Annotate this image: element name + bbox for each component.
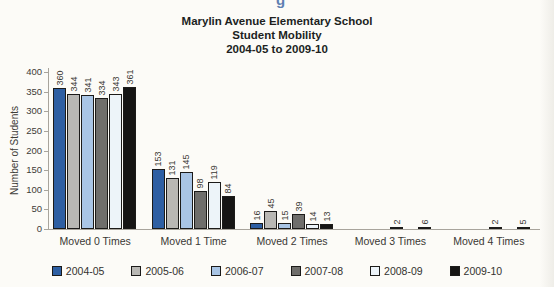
bar-2005-06-moved-0-times [67,94,80,229]
bar-value-label: 45 [265,174,276,208]
bar-2007-08-moved-1-time [194,191,207,229]
bar-2006-07-moved-2-times [278,223,291,229]
x-axis-category-label: Moved 4 Times [434,235,544,247]
bar-2006-07-moved-0-times [81,95,94,229]
legend-swatch-2009-10 [450,266,460,276]
bar-2004-05-moved-2-times [250,223,263,229]
x-axis-line [48,229,540,230]
y-axis-tick-label: 400 [14,67,42,77]
x-axis-category-label: Moved 0 Times [40,235,150,247]
y-axis-tick-mark [44,190,48,191]
x-axis-category-label: Moved 1 Time [139,235,249,247]
bar-2004-05-moved-1-time [152,169,165,229]
legend-item-2009-10: 2009-10 [450,265,503,277]
legend-label: 2007-08 [305,265,344,277]
bar-value-label: 13 [321,187,332,221]
bar-value-label: 344 [68,57,79,91]
legend-label: 2005-06 [145,265,184,277]
y-axis-tick-label: 50 [14,204,42,214]
y-axis-tick-mark [44,72,48,73]
x-axis-category-label: Moved 2 Times [237,235,347,247]
y-axis-tick-mark [44,131,48,132]
legend-item-2007-08: 2007-08 [291,265,344,277]
bar-value-label: 14 [307,187,318,221]
bar-value-label: 334 [96,61,107,95]
bar-value-label: 84 [223,159,234,193]
bar-2009-10-moved-2-times [320,224,333,229]
legend-swatch-2004-05 [52,266,62,276]
bar-2008-09-moved-1-time [208,182,221,229]
y-axis-title: Number of Students [9,101,20,201]
legend-swatch-2006-07 [211,266,221,276]
bar-2007-08-moved-0-times [95,98,108,229]
bar-2007-08-moved-4-times [489,227,502,229]
legend-item-2008-09: 2008-09 [370,265,423,277]
y-axis-tick-mark [44,209,48,210]
bar-2007-08-moved-2-times [292,214,305,229]
bar-2004-05-moved-0-times [53,88,66,229]
legend-swatch-2007-08 [291,266,301,276]
y-axis-tick-label: 0 [14,224,42,234]
legend-item-2005-06: 2005-06 [131,265,184,277]
bar-value-label: 131 [167,141,178,175]
bar-value-label: 98 [195,154,206,188]
bar-value-label: 39 [293,177,304,211]
bar-2005-06-moved-2-times [264,211,277,229]
bar-value-label: 145 [181,135,192,169]
bar-value-label: 15 [279,186,290,220]
bar-value-label: 16 [251,186,262,220]
bar-value-label: 343 [110,57,121,91]
legend-swatch-2008-09 [370,266,380,276]
bar-2008-09-moved-0-times [109,94,122,229]
bar-value-label: 153 [153,132,164,166]
bar-value-label: 361 [124,50,135,84]
bar-value-label: 2 [391,190,402,224]
legend-swatch-2005-06 [131,266,141,276]
y-axis-tick-mark [44,229,48,230]
bar-chart: 050100150200250300350400Number of Studen… [0,0,554,287]
bar-2006-07-moved-1-time [180,172,193,229]
bar-value-label: 119 [209,145,220,179]
y-axis-tick-mark [44,92,48,93]
bar-value-label: 2 [490,190,501,224]
y-axis-tick-mark [44,170,48,171]
x-axis-category-label: Moved 3 Times [335,235,445,247]
bar-value-label: 341 [82,58,93,92]
bar-2009-10-moved-0-times [123,87,136,229]
bar-2009-10-moved-4-times [517,227,530,229]
legend-label: 2006-07 [225,265,264,277]
bar-value-label: 360 [54,51,65,85]
chart-legend: 2004-052005-062006-072007-082008-092009-… [0,265,554,277]
bar-value-label: 6 [419,190,430,224]
legend-item-2004-05: 2004-05 [52,265,105,277]
legend-item-2006-07: 2006-07 [211,265,264,277]
y-axis-line [48,68,49,230]
bar-value-label: 5 [518,190,529,224]
legend-label: 2009-10 [464,265,503,277]
legend-label: 2004-05 [66,265,105,277]
bar-2008-09-moved-2-times [306,224,319,229]
y-axis-tick-mark [44,111,48,112]
bar-2007-08-moved-3-times [390,227,403,229]
bar-2005-06-moved-1-time [166,178,179,229]
y-axis-tick-label: 350 [14,87,42,97]
y-axis-tick-mark [44,151,48,152]
bar-2009-10-moved-3-times [418,227,431,229]
legend-label: 2008-09 [384,265,423,277]
bar-2009-10-moved-1-time [222,196,235,229]
